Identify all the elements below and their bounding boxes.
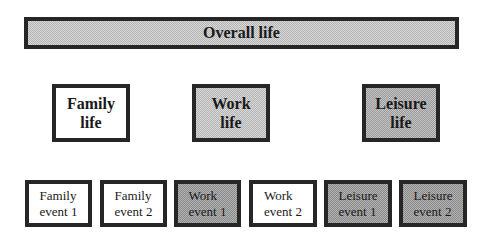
work-event-1-box: Work event 1 (174, 180, 241, 227)
family-event-2-line2: event 2 (115, 204, 153, 220)
work-event-2-box: Work event 2 (249, 180, 317, 227)
work-event-1-line1: Work (189, 188, 227, 204)
leisure-life-label-line2: life (375, 113, 426, 132)
leisure-event-1-box: Leisure event 1 (324, 180, 392, 227)
work-event-2-line2: event 2 (264, 204, 302, 220)
family-event-1-line2: event 1 (40, 204, 78, 220)
work-life-label-line1: Work (211, 94, 250, 113)
family-event-2-line1: Family (115, 188, 153, 204)
leisure-life-label-line1: Leisure (375, 94, 426, 113)
family-life-label-line2: life (67, 113, 115, 132)
family-event-2-box: Family event 2 (100, 180, 167, 227)
leisure-event-2-line1: Leisure (414, 188, 453, 204)
overall-life-box: Overall life (24, 17, 459, 49)
family-event-1-box: Family event 1 (25, 180, 92, 227)
work-event-2-line1: Work (264, 188, 302, 204)
leisure-life-box: Leisure life (362, 84, 440, 142)
family-event-1-line1: Family (40, 188, 78, 204)
overall-life-label: Overall life (203, 24, 280, 42)
leisure-event-2-box: Leisure event 2 (399, 180, 467, 227)
leisure-event-2-line2: event 2 (414, 204, 453, 220)
leisure-event-1-line2: event 1 (339, 204, 378, 220)
work-life-box: Work life (192, 84, 270, 142)
family-life-box: Family life (52, 84, 130, 142)
family-life-label-line1: Family (67, 94, 115, 113)
work-event-1-line2: event 1 (189, 204, 227, 220)
work-life-label-line2: life (211, 113, 250, 132)
leisure-event-1-line1: Leisure (339, 188, 378, 204)
